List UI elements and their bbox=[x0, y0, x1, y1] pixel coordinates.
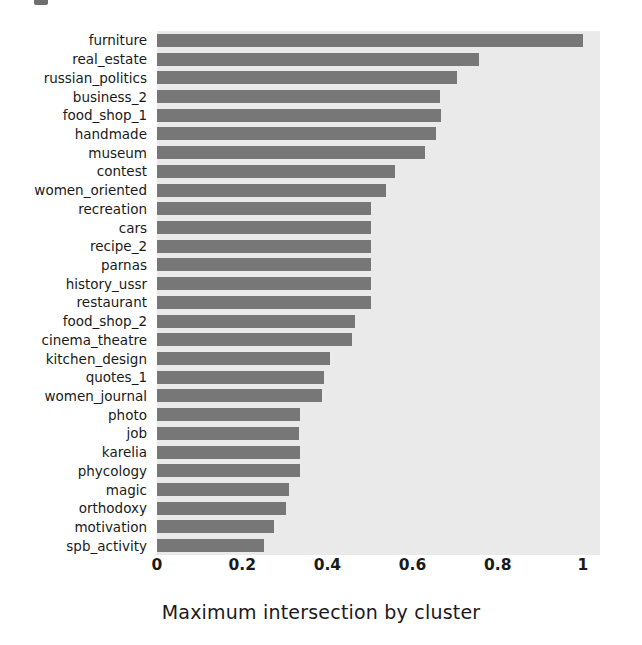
bar-furniture bbox=[157, 34, 583, 47]
x-axis-title: Maximum intersection by cluster bbox=[0, 601, 642, 623]
bar-real_estate bbox=[157, 53, 479, 66]
y-tick-business_2: business_2 bbox=[73, 90, 147, 104]
y-tick-museum: museum bbox=[88, 146, 147, 160]
y-tick-furniture: furniture bbox=[89, 33, 147, 47]
y-tick-photo: photo bbox=[108, 408, 147, 422]
y-tick-handmade: handmade bbox=[75, 127, 147, 141]
bar-women_journal bbox=[157, 389, 322, 402]
bar-food_shop_2 bbox=[157, 315, 355, 328]
y-tick-quotes_1: quotes_1 bbox=[86, 370, 147, 384]
bar-series bbox=[157, 31, 600, 555]
y-tick-cinema_theatre: cinema_theatre bbox=[42, 333, 148, 347]
y-tick-russian_politics: russian_politics bbox=[44, 71, 147, 85]
y-axis-tick-labels: furniturereal_estaterussian_politicsbusi… bbox=[0, 31, 152, 555]
bar-food_shop_1 bbox=[157, 109, 441, 122]
bar-women_oriented bbox=[157, 184, 386, 197]
bar-restaurant bbox=[157, 296, 371, 309]
bar-magic bbox=[157, 483, 289, 496]
y-tick-orthodoxy: orthodoxy bbox=[79, 501, 147, 515]
bar-spb_activity bbox=[157, 539, 264, 552]
x-tick-0.8: 0.8 bbox=[484, 556, 511, 574]
y-tick-magic: magic bbox=[106, 483, 147, 497]
figure-canvas: furniturereal_estaterussian_politicsbusi… bbox=[0, 0, 642, 645]
y-tick-motivation: motivation bbox=[74, 520, 147, 534]
y-tick-kitchen_design: kitchen_design bbox=[46, 352, 147, 366]
y-tick-recreation: recreation bbox=[78, 202, 147, 216]
y-tick-contest: contest bbox=[97, 164, 147, 178]
bar-photo bbox=[157, 408, 300, 421]
y-tick-history_ussr: history_ussr bbox=[66, 277, 147, 291]
bar-recreation bbox=[157, 202, 371, 215]
bar-parnas bbox=[157, 258, 371, 271]
bar-history_ussr bbox=[157, 277, 371, 290]
x-axis-tick-labels: 00.20.40.60.81 bbox=[0, 556, 642, 578]
bar-karelia bbox=[157, 446, 300, 459]
bar-quotes_1 bbox=[157, 371, 324, 384]
y-tick-women_oriented: women_oriented bbox=[34, 183, 147, 197]
y-tick-recipe_2: recipe_2 bbox=[90, 239, 147, 253]
bar-cars bbox=[157, 221, 371, 234]
bar-job bbox=[157, 427, 299, 440]
y-tick-cars: cars bbox=[119, 221, 147, 235]
bar-cinema_theatre bbox=[157, 333, 352, 346]
x-tick-0.2: 0.2 bbox=[228, 556, 255, 574]
clipped-figure-glyph-icon bbox=[34, 0, 48, 5]
x-tick-0.6: 0.6 bbox=[399, 556, 426, 574]
bar-phycology bbox=[157, 464, 300, 477]
y-tick-parnas: parnas bbox=[101, 258, 147, 272]
y-tick-job: job bbox=[126, 426, 147, 440]
y-tick-restaurant: restaurant bbox=[77, 295, 147, 309]
bar-contest bbox=[157, 165, 395, 178]
x-tick-0: 0 bbox=[152, 556, 163, 574]
y-tick-women_journal: women_journal bbox=[44, 389, 147, 403]
y-tick-karelia: karelia bbox=[102, 445, 147, 459]
y-tick-phycology: phycology bbox=[78, 464, 147, 478]
plot-area bbox=[157, 31, 600, 555]
bar-kitchen_design bbox=[157, 352, 330, 365]
bar-recipe_2 bbox=[157, 240, 371, 253]
y-tick-spb_activity: spb_activity bbox=[66, 539, 147, 553]
y-tick-real_estate: real_estate bbox=[72, 52, 147, 66]
bar-orthodoxy bbox=[157, 502, 286, 515]
bar-russian_politics bbox=[157, 71, 457, 84]
y-tick-food_shop_1: food_shop_1 bbox=[63, 108, 147, 122]
bar-motivation bbox=[157, 520, 274, 533]
bar-museum bbox=[157, 146, 425, 159]
bar-business_2 bbox=[157, 90, 440, 103]
bar-handmade bbox=[157, 127, 436, 140]
x-tick-0.4: 0.4 bbox=[314, 556, 341, 574]
y-tick-food_shop_2: food_shop_2 bbox=[63, 314, 147, 328]
x-tick-1: 1 bbox=[578, 556, 589, 574]
